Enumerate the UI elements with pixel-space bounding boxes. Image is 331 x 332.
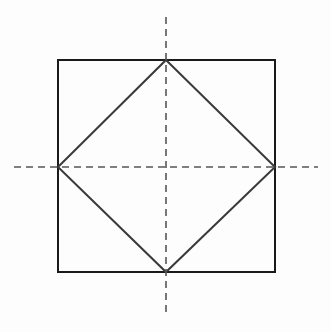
figure-container [0,0,331,332]
geometry-diagram [0,0,331,332]
